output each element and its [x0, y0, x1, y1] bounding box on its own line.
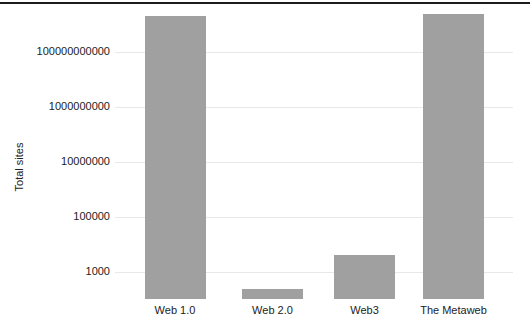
total-sites-bar-chart: Total sites 1000100000100000001000000000… [0, 0, 530, 331]
bar-web-2.0 [242, 289, 303, 300]
y-tick-label-100000000000: 100000000000 [0, 45, 110, 58]
y-tick-label-10000000: 10000000 [0, 155, 110, 168]
y-tick-label-1000000000: 1000000000 [0, 100, 110, 113]
x-label-the-metaweb: The Metaweb [394, 304, 514, 317]
bar-the-metaweb [423, 14, 484, 300]
bar-web3 [334, 255, 395, 299]
bar-web-1.0 [145, 16, 206, 299]
y-tick-label-100000: 100000 [0, 210, 110, 223]
y-tick-label-1000: 1000 [0, 265, 110, 278]
top-horizontal-rule [0, 2, 530, 4]
